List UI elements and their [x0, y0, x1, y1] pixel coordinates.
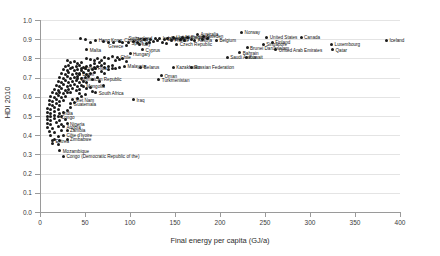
data-point: [57, 108, 60, 111]
data-point: [103, 72, 106, 75]
data-point: [57, 115, 60, 118]
data-point: [62, 134, 65, 137]
x-tick: [40, 212, 41, 217]
data-point: [161, 41, 164, 44]
gridline: [40, 135, 400, 136]
data-point: [55, 121, 58, 124]
data-point-label: Dominican Republic: [81, 76, 122, 81]
x-tick: [85, 212, 86, 217]
data-point-label: Russian Federation: [194, 65, 234, 70]
data-point: [240, 31, 243, 34]
x-tick-label: 200: [205, 219, 235, 226]
data-point-label: Congo: [61, 114, 75, 119]
data-point: [93, 62, 96, 65]
data-point: [46, 118, 49, 121]
data-point: [96, 57, 99, 60]
x-tick-label: 350: [340, 219, 370, 226]
data-point: [57, 80, 60, 83]
data-point: [245, 56, 248, 59]
data-point: [64, 95, 67, 98]
x-tick: [265, 212, 266, 217]
data-point: [58, 100, 61, 103]
data-point: [125, 44, 128, 47]
y-tick: [35, 39, 40, 40]
data-point: [53, 88, 56, 91]
data-point: [172, 66, 175, 69]
y-tick: [35, 154, 40, 155]
data-point-label: Czech Republic: [180, 42, 212, 47]
data-point: [154, 37, 157, 40]
data-point: [138, 43, 141, 46]
x-tick-label: 300: [295, 219, 325, 226]
data-point: [62, 125, 65, 128]
data-point: [60, 87, 63, 90]
data-point: [385, 39, 388, 42]
data-point: [55, 98, 58, 101]
data-point-label: Greece: [108, 43, 123, 48]
data-point: [51, 127, 54, 130]
data-point: [53, 117, 56, 120]
y-tick: [35, 58, 40, 59]
data-point-label: Chile: [120, 55, 130, 60]
data-point: [66, 75, 69, 78]
data-point: [300, 36, 303, 39]
data-point: [48, 103, 51, 106]
y-tick: [35, 135, 40, 136]
x-tick-label: 150: [160, 219, 190, 226]
data-point-label: Belarus: [144, 65, 160, 70]
data-point: [48, 130, 51, 133]
scatter-chart: IcelandNorwayAustraliaUnited StatesCanad…: [0, 0, 440, 256]
x-axis-title: Final energy per capita (GJ/a): [0, 236, 440, 245]
data-point: [91, 90, 94, 93]
data-point: [69, 91, 72, 94]
data-point-label: Kuwait: [249, 55, 263, 60]
y-tick-label: 0.0: [4, 209, 32, 216]
data-point: [67, 64, 70, 67]
x-tick: [130, 212, 131, 217]
data-point: [49, 95, 52, 98]
data-point: [165, 42, 168, 45]
data-point: [111, 64, 114, 67]
x-tick: [355, 212, 356, 217]
data-point-label: Netherlands: [185, 35, 210, 40]
y-tick-label: 0.8: [4, 55, 32, 62]
data-point: [80, 67, 83, 70]
data-point: [66, 59, 69, 62]
x-tick-label: 250: [250, 219, 280, 226]
data-point-label: Turkmenistan: [162, 77, 190, 82]
data-point: [51, 91, 54, 94]
data-point: [69, 67, 72, 70]
y-tick-label: 1.0: [4, 17, 32, 24]
gridline: [40, 116, 400, 117]
data-point: [51, 100, 54, 103]
y-tick: [35, 97, 40, 98]
data-point: [49, 134, 52, 137]
y-tick-label: 0.2: [4, 170, 32, 177]
data-point: [62, 155, 65, 158]
data-point-label: Norway: [245, 30, 261, 35]
y-tick: [35, 20, 40, 21]
data-point: [94, 39, 97, 42]
data-point: [107, 57, 110, 60]
x-tick-label: 400: [385, 219, 415, 226]
data-point-label: Ireland: [163, 36, 177, 41]
data-point-label: Malta: [90, 47, 101, 52]
data-point-label: Luxembourg: [335, 42, 361, 47]
y-tick: [35, 174, 40, 175]
gridline: [40, 174, 400, 175]
data-point: [226, 56, 229, 59]
data-point-label: Eritrea: [56, 138, 70, 143]
data-point: [46, 126, 49, 129]
data-point-label: Mozambique: [63, 148, 89, 153]
data-point: [55, 102, 58, 105]
y-tick-label: 0.3: [4, 151, 32, 158]
y-tick: [35, 193, 40, 194]
data-point: [139, 66, 142, 69]
data-point: [71, 87, 74, 90]
data-point: [66, 129, 69, 132]
data-point: [78, 88, 81, 91]
data-point: [62, 99, 65, 102]
data-point: [76, 77, 79, 80]
data-point: [73, 83, 76, 86]
data-point: [49, 108, 52, 111]
